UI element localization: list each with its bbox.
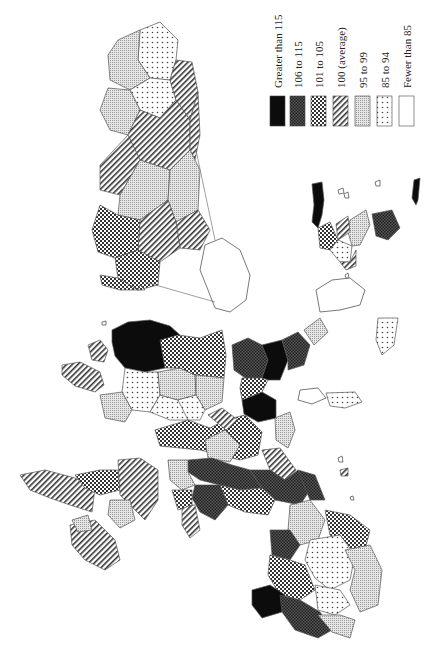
legend-item-85-to-94: 85 to 94 (377, 51, 392, 126)
legend-item-101-to-105: 101 to 105 (311, 40, 326, 126)
legend-label: 106 to 115 (292, 41, 304, 88)
enlarged-inset-region (92, 22, 250, 312)
legend-swatch (333, 96, 348, 126)
legend: Greater than 115 106 to 115 101 to 105 1… (270, 14, 414, 126)
legend-swatch (355, 96, 370, 126)
legend-item-106-to-115: 106 to 115 (290, 41, 305, 126)
legend-item-greater-than-115: Greater than 115 (270, 14, 285, 126)
legend-label: 100 (average) (335, 27, 348, 88)
legend-label: Greater than 115 (272, 14, 284, 88)
legend-swatch (377, 96, 392, 126)
choropleth-map: Greater than 115 106 to 115 101 to 105 1… (0, 0, 429, 650)
legend-item-fewer-than-85: Fewer than 85 (399, 25, 414, 126)
legend-label: 95 to 99 (357, 51, 369, 88)
legend-swatch (399, 96, 414, 126)
northern-islands-inset (312, 178, 420, 278)
legend-item-100-average: 100 (average) (333, 27, 348, 126)
legend-label: 85 to 94 (379, 51, 391, 88)
main-map (20, 278, 398, 638)
legend-label: Fewer than 85 (401, 25, 413, 88)
legend-label: 101 to 105 (313, 40, 325, 88)
legend-item-95-to-99: 95 to 99 (355, 51, 370, 126)
legend-swatch (290, 96, 305, 126)
legend-swatch (270, 96, 285, 126)
legend-swatch (311, 96, 326, 126)
